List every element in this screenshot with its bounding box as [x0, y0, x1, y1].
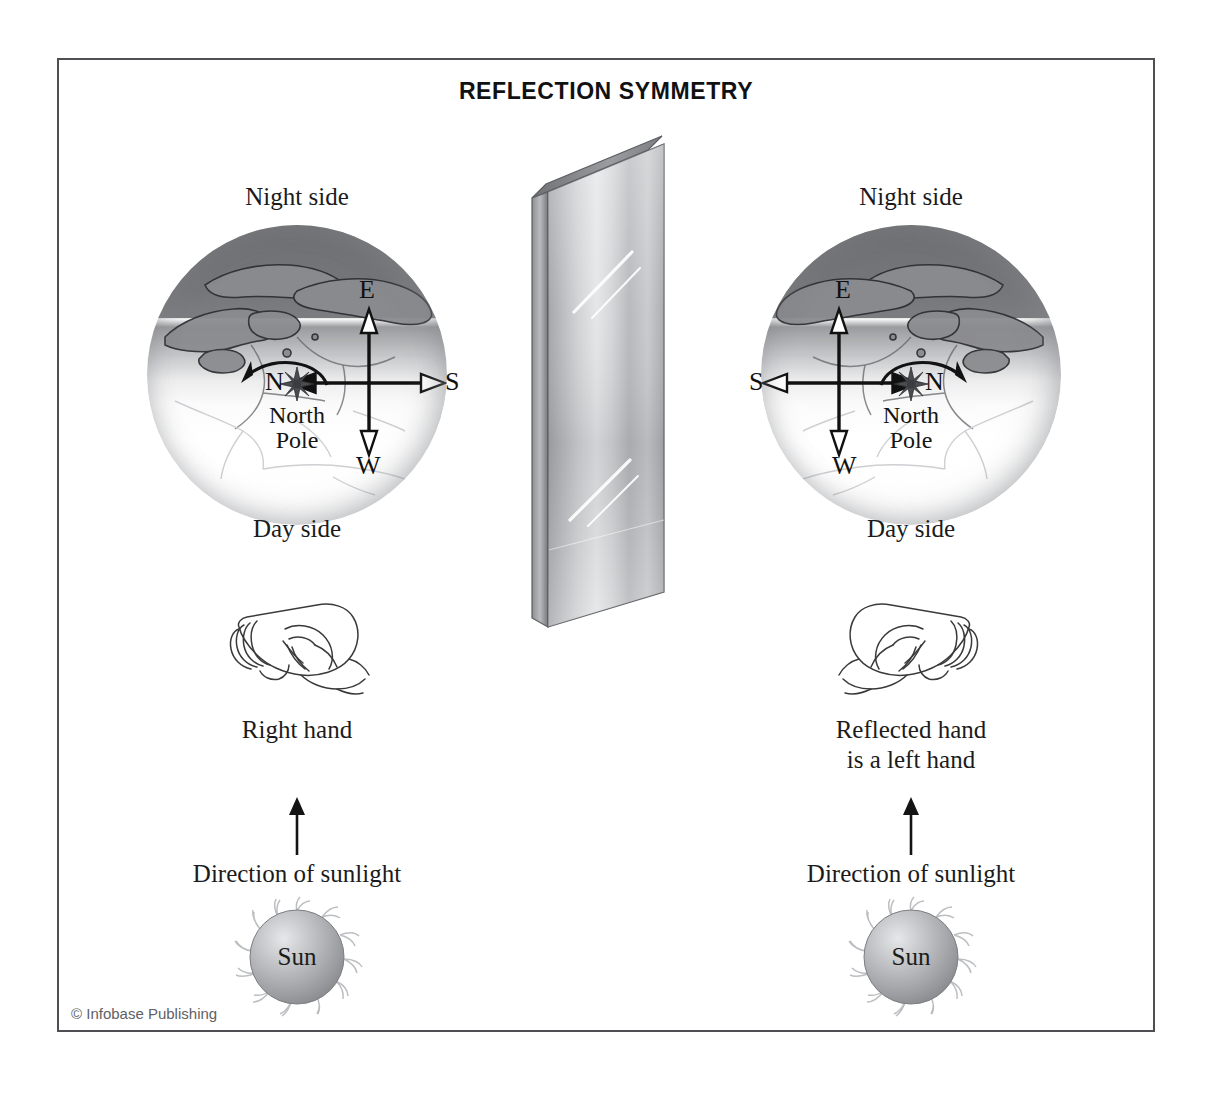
compass-label-down-right: W	[832, 453, 857, 479]
north-pole-caption-left: North Pole	[232, 403, 362, 452]
page-title: REFLECTION SYMMETRY	[59, 78, 1153, 105]
mirror-panel	[514, 122, 694, 662]
reflected-hand-illustration	[811, 585, 1011, 705]
north-pole-star-icon-right	[894, 367, 928, 401]
sun-illustration-left: Sun	[212, 895, 382, 1020]
hand-caption-right: Reflected hand is a left hand	[681, 715, 1141, 774]
hand-drawing-right	[811, 585, 1011, 705]
globe-right: North Pole E W S N	[761, 225, 1061, 525]
copyright-credit: © Infobase Publishing	[71, 1005, 217, 1022]
day-side-label-right: Day side	[681, 515, 1141, 543]
compass-label-up-right: E	[835, 277, 851, 303]
mirror-drawing	[514, 122, 694, 662]
night-side-label-left: Night side	[67, 183, 527, 211]
sunlight-label-right: Direction of sunlight	[681, 860, 1141, 888]
original-panel: Night side	[67, 170, 527, 1000]
sunlight-label-left: Direction of sunlight	[67, 860, 527, 888]
figure-frame: REFLECTION SYMMETRY Night side	[57, 58, 1155, 1032]
compass-label-left-left: N	[265, 369, 284, 395]
compass-label-up-left: E	[359, 277, 375, 303]
day-side-label-left: Day side	[67, 515, 527, 543]
north-pole-caption-right: North Pole	[846, 403, 976, 452]
north-pole-star-icon-left	[280, 367, 314, 401]
sunlight-arrow-right	[898, 795, 924, 855]
sun-drawing-right	[826, 895, 996, 1020]
sunlight-arrow-left	[284, 795, 310, 855]
sun-illustration-right: Sun	[826, 895, 996, 1020]
night-side-label-right: Night side	[681, 183, 1141, 211]
hand-caption-left: Right hand	[67, 715, 527, 745]
hand-drawing-left	[197, 585, 397, 705]
compass-label-right-left: S	[445, 369, 459, 395]
compass-label-down-left: W	[356, 453, 381, 479]
compass-label-right-right: N	[925, 369, 944, 395]
globe-left: North Pole E W N S	[147, 225, 447, 525]
sun-drawing-left	[212, 895, 382, 1020]
right-hand-illustration	[197, 585, 397, 705]
reflection-panel: Night side	[681, 170, 1141, 1000]
compass-label-left-right: S	[749, 369, 763, 395]
